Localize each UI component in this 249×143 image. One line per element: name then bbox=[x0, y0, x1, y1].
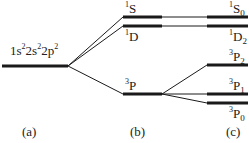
level-3P1-label: 3P1 bbox=[229, 79, 245, 92]
panel-label-c: (c) bbox=[226, 125, 240, 138]
term-1S-label: 1S bbox=[125, 2, 136, 15]
energy-level-diagram: 1s22s22p2 1S 1D 3P 1S0 1D2 3P2 3P1 3P0 (… bbox=[0, 0, 249, 143]
panel-label-a: (a) bbox=[22, 125, 36, 138]
level-3P2-label: 3P2 bbox=[229, 50, 245, 63]
configuration-label: 1s22s22p2 bbox=[10, 44, 58, 57]
level-1S0-label: 1S0 bbox=[229, 2, 245, 15]
level-1D2-label: 1D2 bbox=[229, 30, 247, 43]
level-3P0-label: 3P0 bbox=[229, 107, 245, 120]
term-3P-label: 3P bbox=[125, 79, 136, 92]
panel-label-b: (b) bbox=[130, 125, 145, 138]
term-1D-label: 1D bbox=[125, 30, 138, 43]
diagram-lines bbox=[0, 0, 249, 143]
